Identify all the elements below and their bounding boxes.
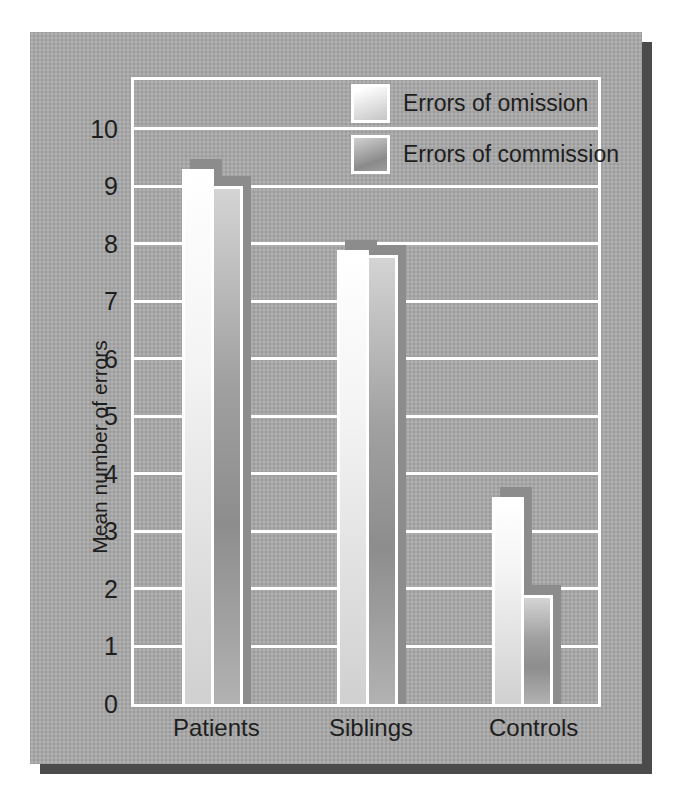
y-tick-label-2: 2	[30, 574, 118, 604]
y-tick-label-6: 6	[30, 344, 118, 374]
omission-bar-siblings	[337, 250, 369, 704]
y-tick-label-10: 10	[30, 114, 118, 144]
chart-panel: Mean number of errors Errors of omission…	[30, 32, 642, 764]
gridline-10	[134, 127, 598, 130]
commission-bar-siblings	[366, 255, 398, 704]
plot-area: Errors of omission Errors of commission	[131, 77, 601, 707]
omission-swatch	[351, 84, 390, 123]
legend-label-omission: Errors of omission	[403, 90, 588, 117]
page-background: Mean number of errors Errors of omission…	[0, 0, 678, 801]
y-tick-label-0: 0	[30, 689, 118, 719]
omission-bar-patients	[182, 169, 214, 704]
y-tick-label-1: 1	[30, 631, 118, 661]
y-tick-label-7: 7	[30, 286, 118, 316]
legend-item-omission: Errors of omission	[351, 84, 588, 123]
y-tick-label-3: 3	[30, 516, 118, 546]
legend-item-commission: Errors of commission	[351, 135, 619, 174]
category-label-controls: Controls	[489, 712, 578, 744]
y-tick-label-4: 4	[30, 459, 118, 489]
y-tick-label-5: 5	[30, 401, 118, 431]
category-label-siblings: Siblings	[329, 712, 413, 744]
commission-bar-controls	[521, 595, 553, 704]
y-tick-label-9: 9	[30, 171, 118, 201]
category-label-patients: Patients	[173, 712, 260, 744]
legend-label-commission: Errors of commission	[403, 141, 619, 168]
omission-bar-controls	[492, 497, 524, 704]
commission-swatch	[351, 135, 390, 174]
y-tick-label-8: 8	[30, 229, 118, 259]
commission-bar-patients	[211, 186, 243, 704]
